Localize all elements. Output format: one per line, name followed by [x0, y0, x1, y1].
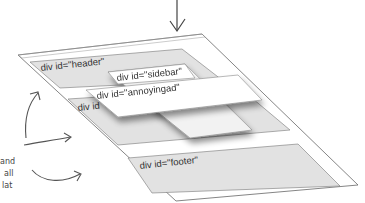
arrow-curve-icon [32, 170, 80, 180]
annotation-line-2: all [4, 169, 13, 178]
arrow-right-icon [24, 137, 70, 145]
layer-diagram: div id="header" div id div id="footer" d… [0, 0, 365, 203]
annotation-line-1: and [0, 157, 15, 166]
main-label: div id [77, 100, 100, 113]
annotation: and all lat [0, 157, 15, 190]
arrow-up-icon [26, 93, 39, 138]
annotation-line-3: lat [2, 181, 12, 190]
down-arrow-icon [170, 0, 185, 31]
